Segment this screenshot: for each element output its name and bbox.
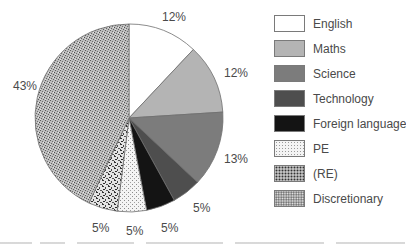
slice-label-maths: 12%	[224, 66, 248, 80]
legend-swatch-technology	[274, 90, 305, 107]
slice-label-foreign-language: 5%	[161, 221, 179, 235]
legend-label: Technology	[313, 92, 374, 106]
legend-swatch-science	[274, 65, 305, 82]
legend-swatch-maths	[274, 40, 305, 57]
legend-swatch-english	[274, 15, 305, 32]
pie-chart: 12% 12% 13% 5% 5% 5% 5% 43%	[0, 0, 270, 245]
slice-label-discretionary: 43%	[13, 79, 37, 93]
slice-label-english: 12%	[162, 10, 186, 24]
legend-label: Discretionary	[313, 192, 383, 206]
slice-label-technology: 5%	[193, 201, 211, 215]
slice-label-pe: 5%	[126, 224, 144, 238]
legend-swatch-discretionary	[274, 190, 305, 207]
slice-label-re: 5%	[92, 221, 110, 235]
legend-swatch-pe	[274, 140, 305, 157]
legend-label: Maths	[313, 42, 346, 56]
legend-label: Foreign language	[313, 117, 406, 131]
legend-swatch-re	[274, 165, 305, 182]
slice-label-science: 13%	[224, 152, 248, 166]
legend-label: Science	[313, 67, 356, 81]
cropped-caption-line	[0, 240, 405, 245]
legend-swatch-foreign-language	[274, 115, 305, 132]
legend-label: (RE)	[313, 167, 338, 181]
legend-label: PE	[313, 142, 329, 156]
legend-label: English	[313, 17, 352, 31]
